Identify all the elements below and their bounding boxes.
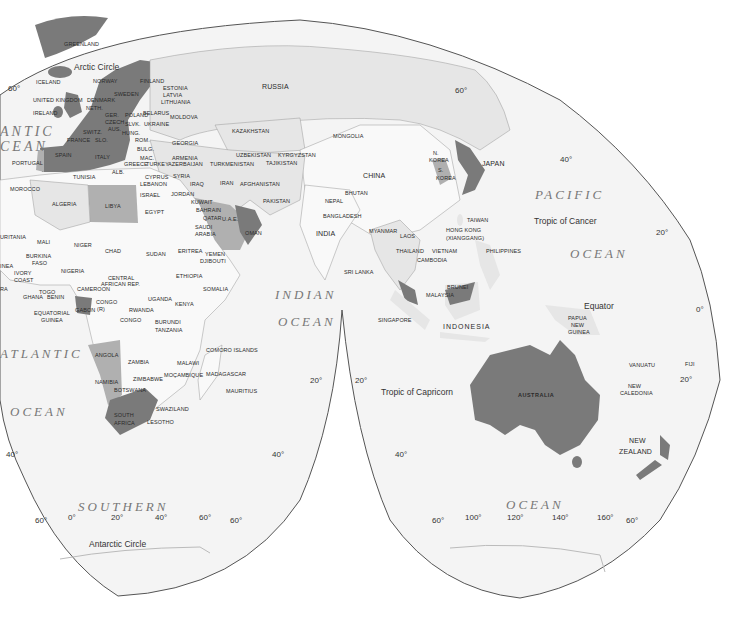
- country-label: MALAYSIA: [426, 293, 454, 299]
- country-label: BRUNEI: [447, 285, 468, 291]
- longitude-label: 40°: [155, 514, 167, 522]
- country-label: KUWAIT: [191, 200, 213, 206]
- country-label: AUS.: [108, 127, 121, 133]
- degree-label: 40°: [395, 451, 407, 459]
- country-label: MALAWI: [177, 361, 199, 367]
- country-label: THAILAND: [396, 249, 424, 255]
- country-label: URITANIA: [0, 235, 26, 241]
- degree-label: 40°: [560, 156, 572, 164]
- longitude-label: 60°: [199, 514, 211, 522]
- degree-label: 60°: [432, 517, 444, 525]
- degree-label: 60°: [230, 517, 242, 525]
- country-label: KENYA: [175, 302, 194, 308]
- country-label: OMAN: [245, 231, 262, 237]
- country-label: SOUTH: [114, 413, 134, 419]
- country-label: PAKISTAN: [263, 199, 290, 205]
- country-label: GUINEA: [568, 330, 590, 336]
- land-taiwan: [457, 214, 463, 226]
- country-label: DJIBOUTI: [200, 259, 226, 265]
- country-label: MOROCCO: [10, 187, 40, 193]
- country-label: CHAD: [105, 249, 121, 255]
- country-label: S.: [438, 168, 443, 174]
- country-label: ZEALAND: [619, 448, 652, 455]
- country-label: TUNISIA: [73, 175, 95, 181]
- degree-label: 20°: [656, 229, 668, 237]
- country-label: ARABIA: [195, 232, 216, 238]
- degree-label: 40°: [6, 451, 18, 459]
- country-label: ALB.: [112, 170, 124, 176]
- country-label: HUNG.: [122, 131, 140, 137]
- country-label: HONG KONG: [446, 228, 481, 234]
- country-label: TAIWAN: [467, 218, 488, 224]
- country-label: AFGHANISTAN: [240, 182, 280, 188]
- degree-label: 0°: [696, 306, 704, 314]
- country-label: ETHIOPIA: [176, 274, 202, 280]
- country-label: TANZANIA: [155, 328, 183, 334]
- country-label: MADAGASCAR: [206, 372, 246, 378]
- country-label: IVORY: [14, 271, 32, 277]
- country-label: CYPRUS: [145, 175, 169, 181]
- ocean-label-atlantic-n: ANTIC: [0, 125, 55, 139]
- country-label: KAZAKHSTAN: [232, 129, 269, 135]
- country-label: LIBYA: [105, 204, 121, 210]
- degree-label: 40°: [272, 451, 284, 459]
- land-tasmania: [572, 456, 582, 468]
- country-label: IRELAND: [33, 111, 58, 117]
- country-label: PAPUA: [568, 316, 587, 322]
- country-label: ZAMBIA: [128, 360, 149, 366]
- country-label: NORWAY: [93, 79, 118, 85]
- country-label: COAST: [14, 278, 33, 284]
- degree-label: 20°: [680, 376, 692, 384]
- country-label: CALEDONIA: [620, 391, 653, 397]
- country-label: INDIA: [316, 230, 335, 237]
- country-label: SPAIN: [55, 153, 72, 159]
- ocean-label-pacific-2: OCEAN: [570, 247, 628, 260]
- country-label: CONGO: [96, 300, 117, 306]
- country-label: SUDAN: [146, 252, 166, 258]
- country-label: MAURITIUS: [226, 389, 257, 395]
- country-label: GUINEA: [41, 318, 63, 324]
- country-label: U.A.E.: [222, 217, 239, 223]
- ocean-label-atlantic-n-2: CEAN: [0, 140, 48, 154]
- country-label: CAMBODIA: [417, 258, 447, 264]
- country-label: VIETNAM: [432, 249, 457, 255]
- ocean-label-southern: SOUTHERN: [78, 500, 168, 513]
- country-label: YEMEN: [205, 252, 225, 258]
- country-label: RWANDA: [129, 308, 154, 314]
- longitude-label: 0°: [68, 514, 76, 522]
- country-label: SWEDEN: [114, 92, 139, 98]
- country-label: LEBANON: [140, 182, 167, 188]
- country-label: COMORO ISLANDS: [206, 348, 258, 354]
- country-label: GABON: [75, 308, 95, 314]
- country-label: NEPAL: [325, 199, 343, 205]
- longitude-label: 120°: [507, 514, 524, 522]
- country-label: BELARUS: [143, 111, 169, 117]
- country-label: ROM.: [135, 138, 150, 144]
- country-label: NEW: [629, 437, 646, 444]
- country-label: ITALY: [95, 155, 110, 161]
- country-label: KOREA: [429, 158, 449, 164]
- ocean-label-southern-2: OCEAN: [506, 498, 564, 511]
- country-label: LITHUANIA: [161, 100, 191, 106]
- country-label: BAHRAIN: [196, 208, 221, 214]
- country-label: SYRIA: [173, 174, 190, 180]
- degree-label: 60°: [35, 517, 47, 525]
- country-label: SWITZ.: [83, 130, 102, 136]
- equator-label: Equator: [584, 302, 614, 311]
- country-label: TAJIKISTAN: [266, 161, 297, 167]
- country-label: AFRICAN REP.: [101, 282, 140, 288]
- country-label: CONGO: [120, 318, 141, 324]
- land-iceland: [48, 66, 72, 78]
- country-label: BURUNDI: [155, 320, 181, 326]
- country-label: SWAZILAND: [156, 407, 189, 413]
- country-label: BULG.: [137, 147, 154, 153]
- country-label: TURKEY: [146, 162, 169, 168]
- country-label: EGYPT: [145, 210, 164, 216]
- country-label: BOTSWANA: [114, 388, 146, 394]
- country-label: GREENLAND: [64, 42, 99, 48]
- country-label: INDONESIA: [443, 323, 491, 330]
- ocean-label-pacific: PACIFIC: [535, 188, 604, 201]
- country-label: EQUATORIAL: [34, 311, 70, 317]
- country-label: MALI: [37, 240, 50, 246]
- tropic-of-capricorn-label: Tropic of Capricorn: [381, 388, 453, 397]
